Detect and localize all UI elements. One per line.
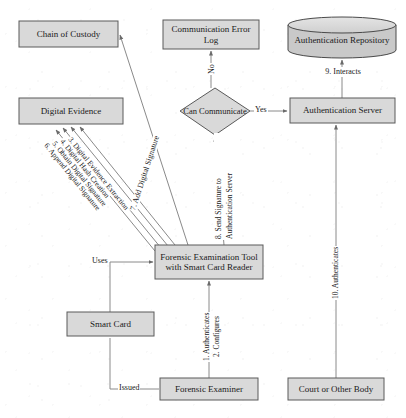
node-communication-error-log[interactable] — [163, 20, 259, 49]
node-authentication-repository[interactable] — [288, 17, 396, 58]
node-forensic-examiner[interactable] — [160, 378, 258, 400]
node-forensic-examination-tool[interactable] — [155, 245, 263, 279]
edge-smart-card-to-tool — [110, 262, 153, 312]
node-can-communicate[interactable] — [180, 88, 250, 135]
edge-label-yes: Yes — [254, 106, 268, 114]
edge-label-configures: 2. Configures — [213, 315, 221, 358]
edge-label-no: No — [208, 63, 216, 75]
node-digital-evidence[interactable] — [19, 98, 123, 124]
edge-examiner-to-smart-card — [110, 338, 159, 389]
edge-label-authenticates-examiner: 1. Authenticates — [203, 312, 211, 362]
edge-label-interacts: 9. Interacts — [322, 67, 364, 77]
edge-label-uses: Uses — [91, 257, 109, 265]
node-court-or-other-body[interactable] — [288, 378, 384, 400]
edge-label-send-signature: 8. Send Signature to Authentication Serv… — [214, 133, 236, 240]
node-chain-of-custody[interactable] — [19, 21, 118, 47]
edge-label-authenticates-court: 10. Authenticates — [332, 246, 340, 300]
edge-label-issued: Issued — [118, 384, 140, 392]
node-authentication-server[interactable] — [290, 98, 395, 123]
node-smart-card[interactable] — [67, 312, 154, 336]
